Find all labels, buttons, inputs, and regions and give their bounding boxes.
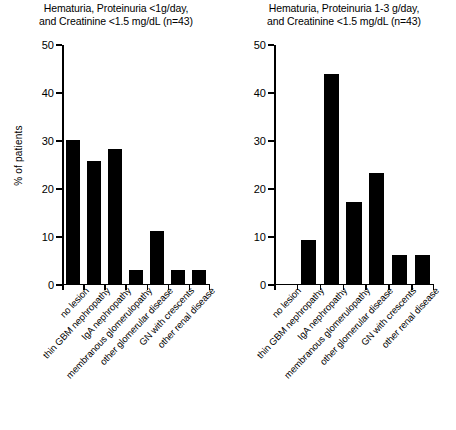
x-tick	[104, 285, 106, 290]
bar-slot	[343, 45, 366, 284]
y-tick-label-0: 0	[48, 279, 54, 291]
bar-slot	[388, 45, 411, 284]
panel-left: Hematuria, Proteinuria <1g/day, and Crea…	[0, 0, 232, 430]
bar	[346, 202, 361, 284]
bar-slot	[411, 45, 434, 284]
bar-slot	[297, 45, 320, 284]
y-tick-label-10: 10	[42, 231, 54, 243]
x-tick	[62, 285, 64, 290]
bar-slot	[274, 45, 297, 284]
y-tick-label-50: 50	[254, 39, 266, 51]
bar-slot	[168, 45, 189, 284]
panel-right-title-line1: Hematuria, Proteinuria 1-3 g/day,	[269, 2, 420, 14]
y-tick-label-30: 30	[42, 135, 54, 147]
y-tick-label-0: 0	[260, 279, 266, 291]
x-labels-left: no lesionthin GBM nephropathyIgA nephrop…	[62, 285, 210, 425]
x-tick	[83, 285, 85, 290]
x-tick	[433, 285, 435, 290]
x-tick	[168, 285, 170, 290]
bar	[392, 255, 407, 284]
bar-slot	[125, 45, 146, 284]
x-tick	[189, 285, 191, 290]
bar	[324, 74, 339, 284]
y-tick-label-10: 10	[254, 231, 266, 243]
bar-slot	[320, 45, 343, 284]
panel-right: Hematuria, Proteinuria 1-3 g/day, and Cr…	[232, 0, 456, 430]
x-labels-right: no lesionthin GBM nephropathyIgA nephrop…	[274, 285, 434, 425]
x-tick	[297, 285, 299, 290]
bar	[171, 270, 185, 283]
x-tick	[209, 285, 211, 290]
x-tick	[125, 285, 127, 290]
panel-left-title-line2: and Creatinine <1.5 mg/dL (n=43)	[0, 15, 232, 28]
x-tick	[320, 285, 322, 290]
bar-slot	[189, 45, 210, 284]
bar	[369, 173, 384, 283]
panel-right-title-line2: and Creatinine <1.5 mg/dL (n=43)	[232, 15, 456, 28]
bar	[415, 255, 430, 284]
bar-slot	[62, 45, 83, 284]
bar	[150, 231, 164, 284]
x-tick	[274, 285, 276, 290]
y-tick-label-40: 40	[42, 87, 54, 99]
bar	[87, 161, 101, 283]
x-tick	[343, 285, 345, 290]
panel-right-title: Hematuria, Proteinuria 1-3 g/day, and Cr…	[232, 2, 456, 28]
y-tick-label-40: 40	[254, 87, 266, 99]
panel-left-title-line1: Hematuria, Proteinuria <1g/day,	[44, 2, 189, 14]
bar-slot	[365, 45, 388, 284]
x-tick	[388, 285, 390, 290]
plot-area-left: 01020304050 no lesionthin GBM nephropath…	[62, 45, 210, 285]
bars-left	[62, 45, 210, 284]
bar	[66, 140, 80, 284]
bar	[108, 149, 122, 283]
figure: % of patients Hematuria, Proteinuria <1g…	[0, 0, 456, 430]
y-tick-label-30: 30	[254, 135, 266, 147]
bar	[301, 240, 316, 283]
bar-slot	[147, 45, 168, 284]
panel-left-title: Hematuria, Proteinuria <1g/day, and Crea…	[0, 2, 232, 28]
y-tick-label-50: 50	[42, 39, 54, 51]
bar	[192, 270, 206, 283]
bar-slot	[104, 45, 125, 284]
y-tick-label-20: 20	[254, 183, 266, 195]
bar	[129, 270, 143, 283]
x-tick	[147, 285, 149, 290]
x-tick	[411, 285, 413, 290]
x-tick	[365, 285, 367, 290]
y-tick-label-20: 20	[42, 183, 54, 195]
bars-right	[274, 45, 434, 284]
plot-area-right: 01020304050 no lesionthin GBM nephropath…	[274, 45, 434, 285]
bar-slot	[83, 45, 104, 284]
